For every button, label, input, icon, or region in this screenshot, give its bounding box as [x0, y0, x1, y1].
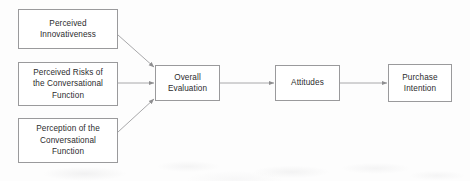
node-label-overall-evaluation: Overall Evaluation: [165, 72, 210, 95]
node-perceived-risks: Perceived Risks of the Conversational Fu…: [18, 62, 118, 106]
node-purchase-intention: Purchase Intention: [388, 64, 452, 102]
node-perception-of-function: Perception of the Conversational Functio…: [18, 118, 118, 163]
node-label-perception-of-function: Perception of the Conversational Functio…: [33, 123, 103, 158]
edge-innovativeness-to-evaluation: [118, 35, 154, 67]
node-label-purchase-intention: Purchase Intention: [399, 72, 440, 95]
node-overall-evaluation: Overall Evaluation: [155, 65, 220, 101]
node-label-perceived-risks: Perceived Risks of the Conversational Fu…: [30, 67, 106, 102]
node-label-perceived-innovativeness: Perceived Innovativeness: [37, 18, 99, 41]
edge-perception-to-evaluation: [118, 99, 154, 132]
conceptual-model-diagram: Perceived Innovativeness Perceived Risks…: [0, 0, 470, 181]
node-label-attitudes: Attitudes: [288, 77, 327, 89]
node-attitudes: Attitudes: [275, 65, 340, 101]
node-perceived-innovativeness: Perceived Innovativeness: [18, 9, 118, 49]
